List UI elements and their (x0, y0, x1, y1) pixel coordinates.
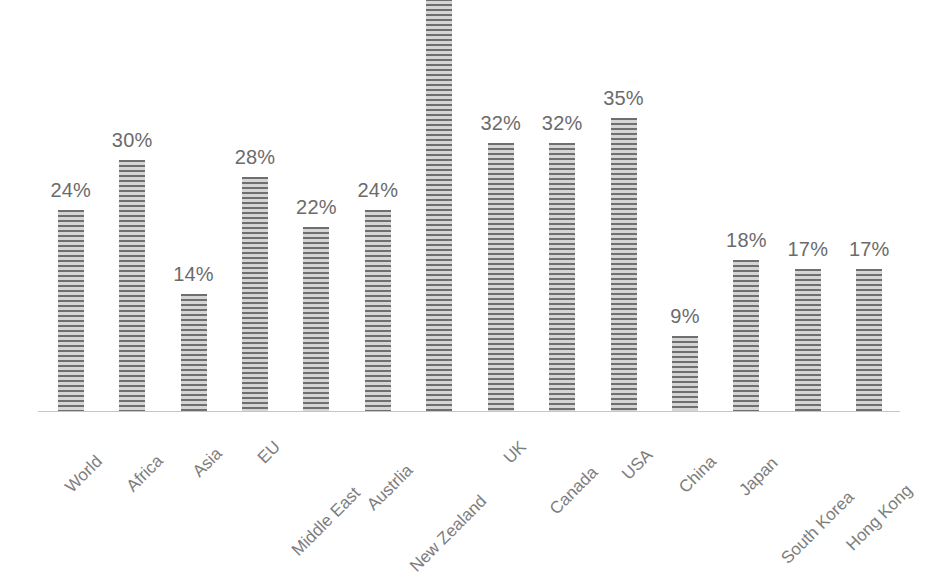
bar-value-label: 9% (670, 305, 699, 328)
bar-slot: 17% (839, 0, 900, 412)
category-axis: WorldAfricaAsiaEUMiddle EastAustrliaNew … (0, 412, 929, 546)
category-tick: EU (224, 412, 285, 546)
bar[interactable] (426, 0, 452, 411)
bar-value-label: 17% (849, 238, 890, 261)
bar-value-label: 32% (480, 112, 521, 135)
bar[interactable] (795, 269, 821, 411)
category-tick: USA (593, 412, 654, 546)
bar-value-label: 32% (542, 112, 583, 135)
bar-value-label: 35% (603, 87, 644, 110)
category-tick: China (654, 412, 715, 546)
bar[interactable] (549, 143, 575, 411)
bar-value-label: 24% (358, 179, 399, 202)
bar[interactable] (488, 143, 514, 411)
category-tick: New Zealand (409, 412, 470, 546)
category-tick: Hong Kong (839, 412, 900, 546)
bar-value-label: 14% (173, 263, 214, 286)
category-label-text: World (61, 452, 106, 497)
bar-value-label: 17% (788, 238, 829, 261)
bar-value-label: 18% (726, 229, 767, 252)
bar[interactable] (181, 294, 207, 411)
category-label-text: Japan (736, 453, 783, 500)
bar[interactable] (611, 118, 637, 411)
bar-slot: 17% (777, 0, 838, 412)
category-label-text: EU (254, 437, 285, 468)
bar-slot: 32% (470, 0, 531, 412)
bar[interactable] (242, 177, 268, 411)
category-tick: Middle East (286, 412, 347, 546)
category-tick: Japan (716, 412, 777, 546)
category-label-text: Asia (188, 444, 226, 482)
bar[interactable] (733, 260, 759, 411)
category-tick: Austrlia (347, 412, 408, 546)
category-label-text: China (675, 452, 721, 498)
bar-slot: 14% (163, 0, 224, 412)
category-label-text: Africa (123, 451, 168, 496)
bar-value-label: 22% (296, 196, 337, 219)
bar-value-label: 24% (50, 179, 91, 202)
category-tick: UK (470, 412, 531, 546)
bar-slot: 18% (716, 0, 777, 412)
plot-area: 24%30%14%28%22%24%32%32%35%9%18%17%17% (0, 0, 929, 412)
bar-slot: 28% (224, 0, 285, 412)
category-tick: Africa (101, 412, 162, 546)
bar-value-label: 30% (112, 129, 153, 152)
bar-slot: 30% (101, 0, 162, 412)
category-label-text: UK (500, 437, 531, 468)
bar-slot (409, 0, 470, 412)
bar[interactable] (672, 336, 698, 411)
category-label-text: Hong Kong (843, 481, 917, 555)
bar-slot: 32% (531, 0, 592, 412)
bar-slot: 9% (654, 0, 715, 412)
category-tick: Canada (531, 412, 592, 546)
bar-slot: 35% (593, 0, 654, 412)
category-label-text: USA (618, 445, 657, 484)
category-tick: Asia (163, 412, 224, 546)
bar-slot: 22% (286, 0, 347, 412)
bar-slot: 24% (347, 0, 408, 412)
category-tick: South Korea (777, 412, 838, 546)
bar[interactable] (303, 227, 329, 411)
bar[interactable] (58, 210, 84, 411)
bar-value-label: 28% (235, 146, 276, 169)
bar[interactable] (119, 160, 145, 411)
category-tick: World (40, 412, 101, 546)
bar[interactable] (856, 269, 882, 411)
bar[interactable] (365, 210, 391, 411)
bar-slot: 24% (40, 0, 101, 412)
